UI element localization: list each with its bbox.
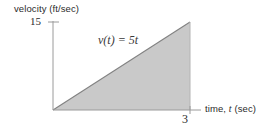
y-axis-tick-label: 15 (30, 16, 41, 27)
x-axis-label-prefix: time, (205, 103, 229, 114)
y-axis-label: velocity (ft/sec) (14, 4, 79, 14)
velocity-time-chart: velocity (ft/sec) time, t (sec) 15 3 v(t… (0, 0, 266, 134)
x-axis-label: time, t (sec) (205, 104, 256, 114)
x-axis-label-suffix: (sec) (232, 103, 256, 114)
x-axis-tick-label: 3 (182, 113, 188, 125)
curve-equation-annotation: v(t) = 5t (98, 34, 138, 46)
